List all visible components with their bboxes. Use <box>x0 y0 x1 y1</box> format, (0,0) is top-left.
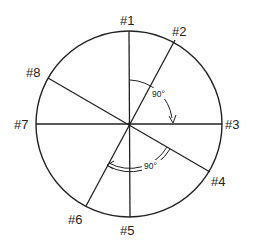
arrowhead-icon <box>169 115 176 123</box>
position-label-4: #4 <box>211 174 225 189</box>
angle-label-4-6: 90° <box>144 161 157 171</box>
angle-label-1-3: 90° <box>152 89 165 99</box>
position-label-2: #2 <box>172 24 186 39</box>
position-label-1: #1 <box>120 13 134 28</box>
line-2-6 <box>86 40 175 206</box>
position-label-8: #8 <box>26 65 40 80</box>
position-label-7: #7 <box>14 117 28 132</box>
center-point <box>127 122 130 125</box>
position-label-3: #3 <box>225 117 239 132</box>
position-label-5: #5 <box>120 223 134 238</box>
position-label-6: #6 <box>68 212 82 227</box>
radial-diagram: 90° 90° #1 #2 #3 #4 #5 #6 #7 #8 <box>0 0 256 245</box>
